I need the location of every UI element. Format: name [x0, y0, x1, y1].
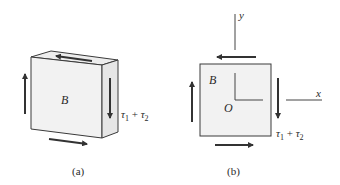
body-label-b: B: [209, 73, 217, 87]
caption-a: (a): [72, 165, 85, 178]
x-axis-label: x: [315, 87, 321, 99]
origin-label: O: [224, 101, 233, 115]
panel-b: y O B x τ1 + τ2 (b): [192, 9, 322, 178]
shear-label-a: τ1 + τ2: [121, 108, 149, 123]
shear-stress-figure: B τ1 + τ2 (a) y O B x τ1 + τ2 (b): [0, 0, 340, 185]
shear-label-b: τ1 + τ2: [276, 127, 304, 142]
shear-arrow-bottom-icon: [49, 139, 87, 144]
caption-b: (b): [227, 165, 240, 178]
body-label-a: B: [61, 93, 69, 107]
y-axis-label: y: [238, 9, 244, 21]
panel-a: B τ1 + τ2 (a): [25, 51, 149, 178]
